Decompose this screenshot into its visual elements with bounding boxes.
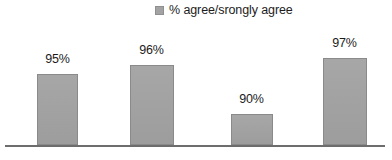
bar-4[interactable] [323,58,367,145]
plot-area: 95% 96% 90% 97% [0,0,392,160]
bar-3-value-label: 90% [224,92,279,107]
bar-chart: % agree/srongly agree 95% 96% 90% 97% [0,0,392,160]
bar-1[interactable] [37,74,78,145]
bar-1-value-label: 95% [30,52,85,67]
bar-3[interactable] [231,114,273,145]
bar-2[interactable] [130,65,174,145]
bar-2-value-label: 96% [124,43,179,58]
x-axis-baseline [5,145,385,147]
bar-4-value-label: 97% [317,36,372,51]
